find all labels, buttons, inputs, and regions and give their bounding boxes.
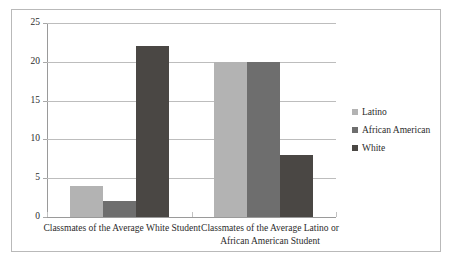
bar-chart: 0510152025 Classmates of the Average Whi… — [12, 10, 442, 253]
gridline-10 — [47, 139, 336, 140]
legend-item-0[interactable]: Latino — [352, 107, 444, 117]
gridline-20 — [47, 62, 336, 63]
chart-legend: LatinoAfrican AmericanWhite — [352, 107, 444, 161]
bar-1-1 — [247, 62, 280, 217]
bar-0-2 — [136, 46, 169, 217]
legend-swatch-icon-2 — [352, 145, 358, 151]
x-axis-divider-0 — [47, 212, 48, 217]
legend-label-0: Latino — [362, 107, 387, 117]
bar-1-0 — [214, 62, 247, 217]
y-tick-label-25: 25 — [31, 18, 41, 28]
plot-area — [47, 23, 336, 217]
y-tick-label-20: 20 — [31, 57, 41, 67]
y-tick-mark-10 — [43, 139, 47, 140]
legend-label-1: African American — [362, 125, 430, 135]
y-tick-mark-0 — [43, 217, 47, 218]
legend-label-2: White — [362, 143, 385, 153]
y-tick-label-15: 15 — [31, 96, 41, 106]
legend-swatch-icon-1 — [352, 127, 358, 133]
bar-1-2 — [280, 155, 313, 217]
y-tick-mark-25 — [43, 23, 47, 24]
y-tick-label-10: 10 — [31, 134, 41, 144]
legend-item-1[interactable]: African American — [352, 125, 444, 135]
x-axis-divider-1 — [192, 212, 193, 217]
y-tick-label-0: 0 — [35, 212, 40, 222]
gridline-0 — [47, 217, 336, 218]
bar-0-0 — [70, 186, 103, 217]
legend-item-2[interactable]: White — [352, 143, 444, 153]
x-axis-divider-2 — [336, 212, 337, 217]
y-axis-tick-labels: 0510152025 — [12, 10, 40, 253]
y-tick-mark-5 — [43, 178, 47, 179]
gridline-25 — [47, 23, 336, 24]
legend-swatch-icon-0 — [352, 109, 358, 115]
gridline-15 — [47, 101, 336, 102]
y-tick-mark-20 — [43, 62, 47, 63]
y-tick-label-5: 5 — [35, 173, 40, 183]
bar-0-1 — [103, 201, 136, 217]
x-axis-category-label-1: Classmates of the Average Latino or Afri… — [190, 222, 350, 247]
chart-figure-frame: 0510152025 Classmates of the Average Whi… — [11, 9, 441, 252]
x-axis-category-label-0: Classmates of the Average White Student — [42, 222, 202, 235]
y-tick-mark-15 — [43, 101, 47, 102]
